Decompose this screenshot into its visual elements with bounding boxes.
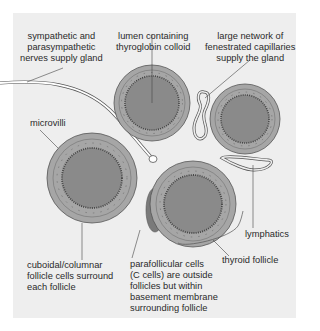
follicle-bottom bbox=[146, 161, 236, 247]
label-parafollicular: parafollicular cells (C cells) are outsi… bbox=[130, 259, 218, 314]
label-thyroid-follicle: thyroid follicle bbox=[222, 255, 278, 266]
label-microvilli: microvilli bbox=[30, 118, 66, 129]
label-nerves: sympathetic and parasympathetic nerves s… bbox=[20, 31, 103, 64]
label-cuboidal: cuboidal/columnar follicle cells surroun… bbox=[27, 260, 113, 293]
label-lymphatics: lymphatics bbox=[245, 229, 289, 240]
label-capillaries: large network of fenestrated capillaries… bbox=[205, 31, 295, 64]
label-lumen: lumen containing thyroglobin colloid bbox=[116, 31, 190, 53]
follicle-right bbox=[210, 84, 280, 154]
capillary-loop bbox=[194, 92, 209, 139]
lymphatic-vessel bbox=[222, 157, 272, 170]
follicle-left bbox=[47, 133, 137, 223]
